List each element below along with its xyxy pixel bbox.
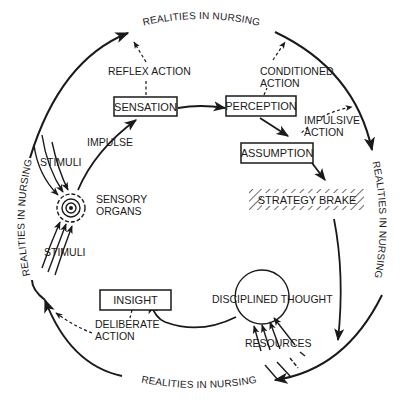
deliberate-action-arrow: [56, 313, 92, 333]
resources-label: RESOURCES: [245, 337, 312, 349]
insight-label: INSIGHT: [113, 294, 158, 306]
sensory-organs-node: [57, 194, 85, 222]
resource-line-3: [290, 358, 298, 368]
assumption-to-brake-arrow: [312, 163, 325, 180]
nursing-process-cycle-diagram: REALITIES IN NURSING REALITIES IN NURSIN…: [0, 0, 402, 412]
assumption-label: ASSUMPTION: [241, 147, 314, 159]
stimuli-top-label: STIMULI: [40, 156, 81, 168]
ring-label-bottom: REALITIES IN NURSING: [141, 374, 258, 390]
sensory-to-sensation-impulse-arrow: [78, 120, 136, 190]
box-sensation: SENSATION: [114, 97, 177, 116]
resource-line-4: [300, 352, 305, 356]
ring-arc-left-lower: [32, 280, 45, 300]
sensation-label: SENSATION: [114, 101, 177, 113]
deliberate-action-label-2: ACTION: [95, 330, 135, 342]
box-perception: PERCEPTION: [225, 96, 297, 116]
sensory-organs-icon: [69, 206, 73, 210]
impulse-label: IMPULSE: [87, 136, 133, 148]
perception-label: PERCEPTION: [225, 100, 297, 112]
sensory-organs-label-2: ORGANS: [96, 205, 142, 217]
deliberate-action-label-1: DELIBERATE: [95, 318, 160, 330]
resource-line-1: [265, 365, 278, 380]
strategy-brake: STRATEGY BRAKE: [249, 189, 364, 210]
deliberate-to-insight-dash: [130, 310, 132, 318]
impulsive-action-label-2: ACTION: [304, 126, 344, 138]
reflex-action-label: REFLEX ACTION: [108, 65, 191, 77]
ring-label-left: REALITIES IN NURSING: [15, 158, 34, 278]
stimuli-bottom-arrow-1: [42, 222, 60, 268]
sensory-organs-label-1: SENSORY: [96, 193, 147, 205]
conditioned-action-label-1: CONDITIONED: [260, 65, 334, 77]
impulsive-action-label-1: IMPULSIVE: [304, 114, 360, 126]
conditioned-action-label-2: ACTION: [260, 77, 300, 89]
ring-label-top: REALITIES IN NURSING: [142, 10, 262, 28]
resource-line-2: [277, 362, 290, 376]
conditioned-action-arrow: [273, 42, 285, 60]
disciplined-thought-label: DISCIPLINED THOUGHT: [212, 293, 333, 305]
box-assumption: ASSUMPTION: [241, 143, 314, 163]
conditioned-to-perception-dash: [264, 88, 267, 95]
strategy-brake-label: STRATEGY BRAKE: [258, 194, 357, 206]
ring-label-right: REALITIES IN NURSING: [371, 160, 389, 279]
stimuli-bottom-label: STIMULI: [44, 246, 85, 258]
reflex-action-arrow: [134, 42, 146, 62]
box-insight: INSIGHT: [100, 290, 171, 310]
perception-to-assumption-arrow: [260, 118, 288, 136]
sensation-to-perception-arrow: [178, 106, 225, 108]
